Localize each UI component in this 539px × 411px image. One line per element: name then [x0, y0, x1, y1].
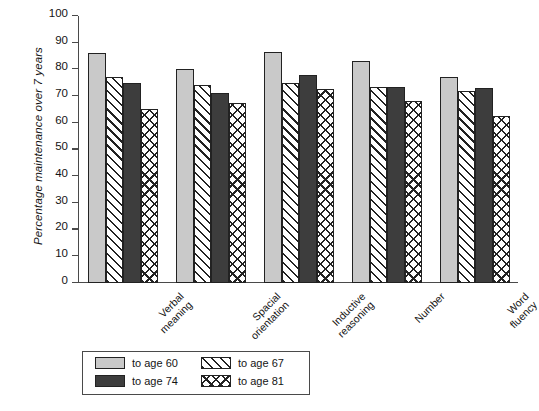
bar — [176, 69, 194, 283]
y-axis-tick: 40 — [72, 175, 78, 176]
x-axis-category-label: Wordfluency — [499, 290, 539, 331]
bar — [352, 61, 370, 283]
bar — [282, 83, 300, 283]
y-axis-tick: 30 — [72, 202, 78, 203]
x-axis-category-label: Inductivereasoning — [327, 290, 377, 340]
legend-label: to age 74 — [132, 375, 178, 387]
bar-group — [352, 16, 422, 283]
bar — [123, 83, 141, 283]
bar — [264, 52, 282, 283]
y-axis-tick: 50 — [72, 148, 78, 149]
x-axis-category-label-line: Number — [412, 290, 447, 325]
legend-swatch — [95, 375, 125, 387]
chart-legend: to age 60to age 67to age 74to age 81 — [82, 351, 310, 395]
legend-entry: to age 67 — [201, 357, 284, 369]
legend-label: to age 60 — [132, 357, 178, 369]
bar-group — [176, 16, 246, 283]
bar-group — [264, 16, 334, 283]
bar — [141, 109, 159, 283]
legend-label: to age 67 — [238, 357, 284, 369]
y-axis-tick: 10 — [72, 255, 78, 256]
y-axis-tick: 70 — [72, 95, 78, 96]
y-axis-tick: 100 — [72, 15, 78, 16]
y-axis-tick-label: 40 — [55, 167, 68, 179]
bar — [370, 87, 388, 283]
y-axis-tick-label: 70 — [55, 87, 68, 99]
y-axis-tick: 20 — [72, 228, 78, 229]
y-axis-title: Percentage maintenance over 7 years — [32, 16, 44, 276]
bar — [194, 85, 212, 283]
bar-group — [440, 16, 510, 283]
bar — [211, 93, 229, 283]
y-axis-tick-label: 80 — [55, 60, 68, 72]
bar — [493, 116, 511, 283]
y-axis-line — [78, 16, 79, 283]
bar — [387, 87, 405, 283]
x-axis-category-label: Spacialorientation — [239, 290, 291, 342]
y-axis-tick-label: 0 — [62, 274, 68, 286]
legend-swatch — [201, 375, 231, 387]
bar — [458, 91, 476, 283]
y-axis-tick: 80 — [72, 68, 78, 69]
y-axis-tick: 60 — [72, 122, 78, 123]
legend-label: to age 81 — [238, 375, 284, 387]
y-axis-tick-label: 100 — [49, 7, 68, 19]
y-axis-tick-label: 30 — [55, 194, 68, 206]
bar — [299, 75, 317, 283]
bar — [317, 89, 335, 283]
bar — [106, 77, 124, 283]
x-axis-category-label: Number — [412, 290, 447, 325]
y-axis-tick-label: 60 — [55, 114, 68, 126]
legend-entry: to age 74 — [95, 375, 178, 387]
plot-area: 0102030405060708090100 — [78, 16, 518, 283]
y-axis-tick: 90 — [72, 42, 78, 43]
legend-swatch — [201, 357, 231, 369]
bar-group — [88, 16, 158, 283]
y-axis-tick-label: 50 — [55, 140, 68, 152]
bar — [475, 88, 493, 283]
legend-entry: to age 60 — [95, 357, 178, 369]
bar — [88, 53, 106, 283]
legend-swatch — [95, 357, 125, 369]
legend-entry: to age 81 — [201, 375, 284, 387]
y-axis-tick-label: 20 — [55, 220, 68, 232]
bar — [405, 101, 423, 283]
x-axis-category-label: Verbalmeaning — [149, 290, 194, 335]
y-axis-tick-label: 10 — [55, 247, 68, 259]
bar — [229, 103, 247, 283]
bar — [440, 77, 458, 283]
y-axis-tick-label: 90 — [55, 34, 68, 46]
y-axis-tick: 0 — [72, 282, 78, 283]
